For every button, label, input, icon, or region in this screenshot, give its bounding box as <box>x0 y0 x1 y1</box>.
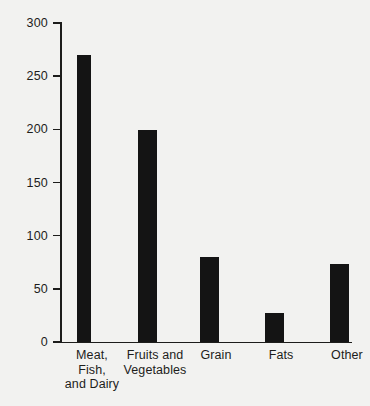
x-axis-label-line: Vegetables <box>85 363 225 378</box>
bar-chart: 050100150200250300 Meat,Fish,and DairyFr… <box>0 0 370 406</box>
bar-1 <box>77 55 91 342</box>
x-axis-label-5: Other <box>277 348 370 363</box>
bars-group <box>0 0 370 406</box>
bar-3 <box>200 257 219 342</box>
bar-5 <box>330 264 349 342</box>
x-axis-labels: Meat,Fish,and DairyFruits andVegetablesG… <box>0 348 370 406</box>
bar-4 <box>265 313 284 342</box>
bar-2 <box>138 130 157 342</box>
x-axis-label-line: Other <box>277 348 370 363</box>
x-axis-label-line: and Dairy <box>22 377 162 392</box>
